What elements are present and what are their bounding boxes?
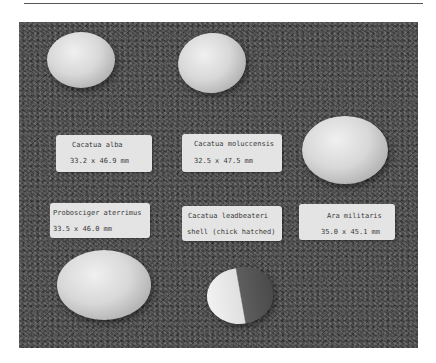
label-cacatua-alba: Cacatua alba 33.2 x 46.9 mm	[56, 135, 152, 172]
species-name: Cacatua moluccensis	[194, 140, 274, 149]
measurement: 35.0 x 45.1 mm	[321, 228, 380, 237]
measurement: 33.5 x 46.0 mm	[53, 225, 112, 234]
egg-probosciger-aterrimus	[57, 250, 151, 320]
measurement: shell (chick hatched)	[187, 228, 276, 237]
label-probosciger-aterrimus: Probosciger aterrimus 33.5 x 46.0 mm	[50, 203, 150, 238]
egg-ara-militaris	[302, 116, 388, 184]
egg-cacatua-moluccensis	[174, 29, 250, 98]
species-name: Cacatua alba	[72, 141, 123, 150]
egg-cacatua-alba	[47, 32, 115, 88]
measurement: 33.2 x 46.9 mm	[70, 157, 129, 166]
label-cacatua-moluccensis: Cacatua moluccensis 32.5 x 47.5 mm	[182, 134, 282, 172]
eggshell-cacatua-leadbeateri	[203, 263, 278, 330]
species-name: Probosciger aterrimus	[53, 209, 142, 218]
egg-photo: Cacatua alba 33.2 x 46.9 mm Cacatua molu…	[19, 22, 418, 348]
header-rule	[24, 3, 423, 4]
species-name: Cacatua leadbeateri	[188, 212, 268, 221]
label-ara-militaris: Ara militaris 35.0 x 45.1 mm	[299, 204, 395, 240]
species-name: Ara militaris	[327, 212, 382, 221]
label-cacatua-leadbeateri: Cacatua leadbeateri shell (chick hatched…	[182, 206, 282, 241]
measurement: 32.5 x 47.5 mm	[194, 157, 253, 166]
